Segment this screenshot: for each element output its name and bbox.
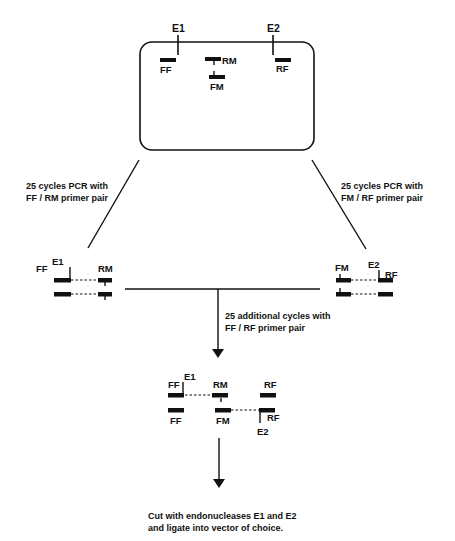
combined-bottom-ff-label: FF <box>170 415 182 426</box>
right-fm-label: FM <box>335 262 349 273</box>
primer-rf-label: RF <box>276 63 289 74</box>
final-arrow-head <box>213 479 225 488</box>
overlap-extension-pcr-diagram: E1 E2 FF RM FM RF 25 cycles PCR with FF … <box>0 0 455 541</box>
primer-rm-bar <box>205 57 221 61</box>
right-pcr-caption-line1: 25 cycles PCR with <box>341 181 423 191</box>
combined-bottom-e2-label: E2 <box>257 426 269 437</box>
left-ff-label: FF <box>36 263 48 274</box>
combined-bottom-rf-label: RF <box>267 412 280 423</box>
merge-arrow-head <box>212 349 224 358</box>
combined-top-rf-label: RF <box>264 379 277 390</box>
right-branch-line <box>312 160 366 249</box>
right-pcr-caption-line2: FM / RF primer pair <box>341 193 424 203</box>
left-rm-label: RM <box>98 263 113 274</box>
left-pcr-caption-line1: 25 cycles PCR with <box>26 181 108 191</box>
template-plasmid: E1 E2 FF RM FM RF <box>140 22 314 150</box>
primer-fm-label: FM <box>210 81 224 92</box>
combined-top-e1-label: E1 <box>184 371 196 382</box>
primer-rm-label: RM <box>222 55 237 66</box>
combined-pcr-caption-line2: FF / RF primer pair <box>225 323 306 333</box>
primer-rf-bar <box>275 58 291 62</box>
combined-top-ff-label: FF <box>168 379 180 390</box>
right-e2-label: E2 <box>368 259 380 270</box>
combined-pcr-product: FF E1 RM RF FF FM RF E2 <box>168 371 280 437</box>
site-e2-label: E2 <box>267 22 280 34</box>
combined-bottom-fm-label: FM <box>216 415 230 426</box>
left-branch-line <box>88 160 139 248</box>
primer-ff-bar <box>160 58 176 62</box>
primer-ff-label: FF <box>160 64 172 75</box>
left-e1-label: E1 <box>52 256 64 267</box>
combined-top-rm-label: RM <box>213 379 228 390</box>
final-caption-line1: Cut with endonucleases E1 and E2 <box>148 511 297 521</box>
left-pcr-caption-line2: FF / RM primer pair <box>26 193 109 203</box>
primer-fm-bar <box>209 75 225 79</box>
left-pcr-product: FF E1 RM <box>36 256 113 300</box>
site-e1-label: E1 <box>172 22 185 34</box>
right-pcr-product: FM E2 RF <box>335 259 398 297</box>
combined-pcr-caption-line1: 25 additional cycles with <box>225 311 331 321</box>
final-caption-line2: and ligate into vector of choice. <box>148 523 283 533</box>
